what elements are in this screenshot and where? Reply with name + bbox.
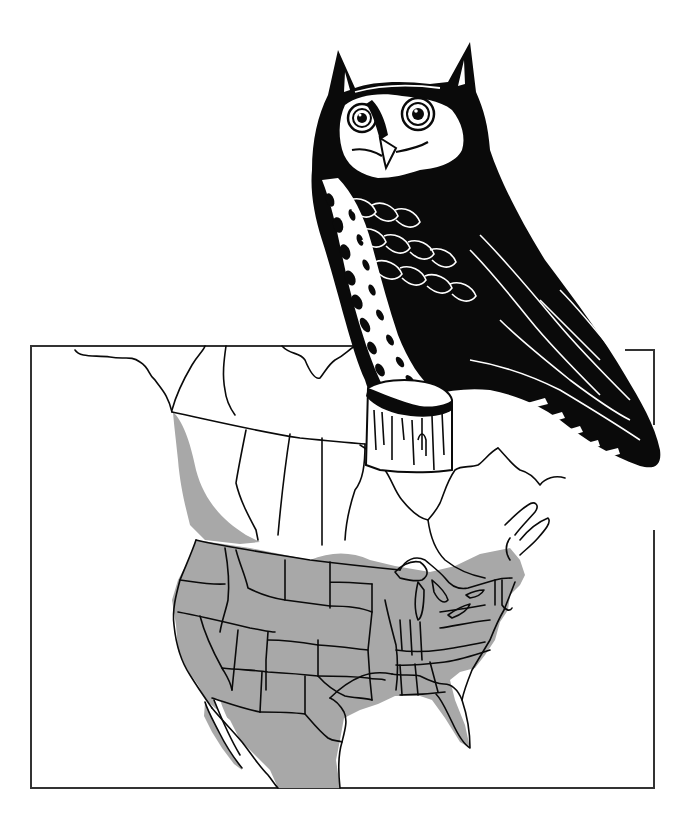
figure (0, 0, 693, 821)
range-shading (172, 412, 525, 788)
owl-illustration (311, 42, 660, 472)
owl-range-map-illustration (0, 0, 693, 821)
tree-stump (366, 380, 452, 472)
